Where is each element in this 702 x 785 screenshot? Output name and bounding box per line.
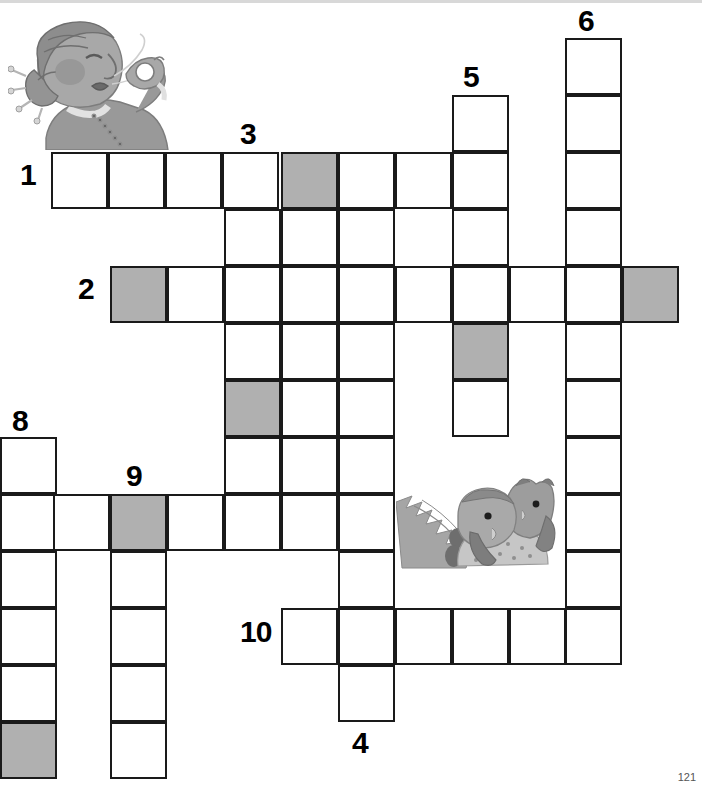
crossword-cell[interactable]: [565, 380, 622, 437]
crossword-cell[interactable]: [281, 494, 338, 551]
clue-number-9: 9: [126, 461, 142, 491]
crossword-cell[interactable]: [452, 608, 509, 665]
crossword-cell[interactable]: [0, 665, 57, 722]
crossword-cell[interactable]: [565, 608, 622, 665]
crossword-cell[interactable]: [51, 152, 108, 209]
crossword-cell-shaded[interactable]: [110, 494, 167, 551]
crossword-cell[interactable]: [281, 380, 338, 437]
clue-number-3: 3: [240, 119, 256, 149]
crossword-cell[interactable]: [338, 608, 395, 665]
crossword-cell[interactable]: [452, 380, 509, 437]
clue-number-8: 8: [12, 406, 28, 436]
crossword-cell[interactable]: [395, 266, 452, 323]
crossword-cell[interactable]: [565, 95, 622, 152]
crossword-cell-shaded[interactable]: [110, 266, 167, 323]
crossword-cell[interactable]: [338, 494, 395, 551]
crossword-cell[interactable]: [110, 665, 167, 722]
crossword-cell-shaded[interactable]: [281, 152, 338, 209]
crossword-cell[interactable]: [0, 494, 57, 551]
crossword-cell[interactable]: [0, 608, 57, 665]
crossword-cell[interactable]: [565, 38, 622, 95]
crossword-cell[interactable]: [224, 323, 281, 380]
crossword-cell[interactable]: [565, 266, 622, 323]
clue-number-4: 4: [352, 728, 368, 758]
crossword-cell[interactable]: [53, 494, 110, 551]
crossword-cell[interactable]: [509, 608, 566, 665]
crossword-cell-shaded[interactable]: [622, 266, 679, 323]
crossword-cell[interactable]: [565, 152, 622, 209]
crossword-cell[interactable]: [395, 152, 452, 209]
crossword-cell[interactable]: [338, 437, 395, 494]
page-number: 121: [678, 771, 696, 783]
crossword-cell[interactable]: [565, 494, 622, 551]
crossword-cell[interactable]: [452, 209, 509, 266]
crossword-cell[interactable]: [338, 152, 395, 209]
crossword-cell[interactable]: [338, 323, 395, 380]
crossword-cell[interactable]: [395, 608, 452, 665]
crossword-cell[interactable]: [338, 665, 395, 722]
crossword-cell[interactable]: [452, 266, 509, 323]
crossword-cell-shaded[interactable]: [0, 722, 57, 779]
crossword-cell[interactable]: [338, 266, 395, 323]
crossword-cell[interactable]: [108, 152, 165, 209]
crossword-cell[interactable]: [224, 266, 281, 323]
crossword-cell[interactable]: [509, 266, 566, 323]
clue-number-2: 2: [78, 274, 94, 304]
crossword-cell[interactable]: [110, 551, 167, 608]
clue-number-6: 6: [578, 6, 594, 36]
crossword-cell[interactable]: [452, 152, 509, 209]
two-owls-illustration: [396, 472, 566, 578]
crossword-cell[interactable]: [565, 323, 622, 380]
clue-number-10: 10: [240, 617, 271, 647]
crossword-cell-shaded[interactable]: [452, 323, 509, 380]
crossword-cell[interactable]: [167, 494, 224, 551]
crossword-cell[interactable]: [338, 380, 395, 437]
crossword-cell[interactable]: [0, 437, 57, 494]
clue-number-5: 5: [463, 62, 479, 92]
crossword-cell[interactable]: [281, 266, 338, 323]
crossword-cell[interactable]: [222, 152, 279, 209]
crossword-cell[interactable]: [338, 551, 395, 608]
crossword-cell[interactable]: [338, 209, 395, 266]
grandmother-whistling-illustration: [8, 10, 180, 150]
clue-number-1: 1: [20, 160, 36, 190]
crossword-cell[interactable]: [281, 608, 338, 665]
crossword-cell[interactable]: [224, 209, 281, 266]
crossword-cell[interactable]: [565, 437, 622, 494]
crossword-cell[interactable]: [565, 209, 622, 266]
crossword-cell[interactable]: [281, 209, 338, 266]
crossword-cell[interactable]: [165, 152, 222, 209]
crossword-cell[interactable]: [281, 437, 338, 494]
crossword-cell[interactable]: [565, 551, 622, 608]
crossword-cell[interactable]: [224, 494, 281, 551]
crossword-cell[interactable]: [224, 437, 281, 494]
crossword-cell[interactable]: [0, 551, 57, 608]
crossword-cell[interactable]: [281, 323, 338, 380]
crossword-cell[interactable]: [110, 608, 167, 665]
crossword-cell[interactable]: [110, 722, 167, 779]
crossword-cell[interactable]: [452, 95, 509, 152]
crossword-cell-shaded[interactable]: [224, 380, 281, 437]
crossword-cell[interactable]: [167, 266, 224, 323]
